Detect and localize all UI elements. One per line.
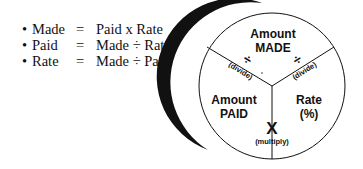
formula-circle-diagram: Amount MADE Amount PAID Rate (%) ÷ (divi… xyxy=(0,0,363,169)
multiply-label: (multiply) xyxy=(255,137,289,146)
label-rate-1: Rate xyxy=(296,93,322,107)
label-rate-2: (%) xyxy=(300,107,319,121)
label-amount-made-1: Amount xyxy=(250,27,295,41)
center-dot xyxy=(261,72,263,74)
label-amount-paid-1: Amount xyxy=(211,93,256,107)
multiply-icon: X xyxy=(266,119,278,138)
label-amount-made-2: MADE xyxy=(255,41,290,55)
label-amount-paid-2: PAID xyxy=(220,107,248,121)
